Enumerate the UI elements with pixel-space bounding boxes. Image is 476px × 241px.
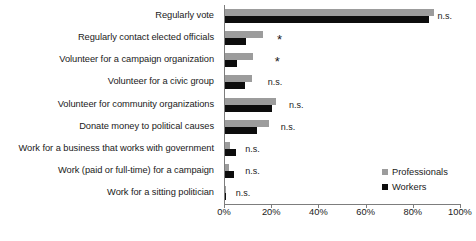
category-label: Donate money to political causes [79, 121, 214, 132]
bar-professionals [225, 53, 253, 60]
bar-workers [225, 82, 245, 89]
x-axis-tick-label: 20% [262, 207, 281, 217]
legend-item[interactable]: Professionals [382, 164, 448, 179]
legend-label: Workers [392, 182, 426, 192]
category-label: Work for a sitting politician [107, 187, 214, 198]
category-label: Work (paid or full-time) for a campaign [58, 165, 214, 176]
bar-workers [225, 60, 237, 67]
bar-group [225, 31, 461, 45]
significance-label: n.s. [245, 166, 260, 176]
category-label: Volunteer for a civic group [108, 76, 214, 87]
bar-group [225, 9, 461, 23]
bar-workers [225, 171, 234, 178]
bar-professionals [225, 164, 229, 171]
bar-workers [225, 16, 429, 23]
x-axis-tick-label: 100% [448, 207, 472, 217]
significance-label: n.s. [289, 100, 304, 110]
bar-professionals [225, 31, 263, 38]
significance-label: n.s. [268, 77, 283, 87]
bar-group [225, 98, 461, 112]
bar-workers [225, 105, 272, 112]
category-label: Volunteer for community organizations [58, 99, 214, 110]
x-axis-tick-label: 40% [309, 207, 328, 217]
category-label: Work for a business that works with gove… [19, 143, 214, 154]
significance-label: n.s. [236, 188, 251, 198]
legend-swatch-icon [382, 184, 388, 190]
bar-professionals [225, 75, 252, 82]
category-axis-labels: Regularly voteRegularly contact elected … [0, 0, 219, 204]
legend-item[interactable]: Workers [382, 179, 448, 194]
category-label: Volunteer for a campaign organization [59, 54, 214, 65]
bar-workers [225, 149, 236, 156]
significance-label: * [277, 36, 282, 44]
significance-label: n.s. [245, 144, 260, 154]
x-axis-line [224, 204, 460, 205]
bar-group [225, 142, 461, 156]
legend-swatch-icon [382, 169, 388, 175]
bar-professionals [225, 186, 226, 193]
significance-label: n.s. [438, 11, 453, 21]
category-label: Regularly vote [155, 10, 214, 21]
x-axis-tick-label: 80% [403, 207, 422, 217]
bar-professionals [225, 98, 276, 105]
category-label: Regularly contact elected officials [78, 32, 214, 43]
bar-professionals [225, 9, 434, 16]
chart-legend: ProfessionalsWorkers [382, 164, 448, 194]
bar-professionals [225, 120, 269, 127]
legend-label: Professionals [392, 167, 448, 177]
bar-chart: Regularly voteRegularly contact elected … [0, 0, 476, 241]
bar-group [225, 120, 461, 134]
bar-workers [225, 38, 246, 45]
bar-professionals [225, 142, 230, 149]
significance-label: n.s. [281, 122, 296, 132]
x-axis-tick-label: 60% [356, 207, 375, 217]
bar-group [225, 53, 461, 67]
bar-workers [225, 127, 257, 134]
significance-label: * [275, 58, 280, 66]
bar-group [225, 75, 461, 89]
x-axis-tick-label: 0% [217, 207, 230, 217]
